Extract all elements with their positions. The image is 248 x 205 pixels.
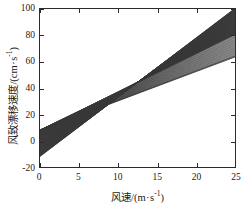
y-tick-label: 100 bbox=[1, 3, 35, 13]
x-tick-mark bbox=[40, 9, 41, 13]
x-tick-label: 10 bbox=[113, 172, 123, 182]
y-tick-mark bbox=[231, 89, 235, 90]
x-tick-mark bbox=[197, 9, 198, 13]
x-tick-mark bbox=[40, 163, 41, 167]
x-tick-label: 25 bbox=[231, 172, 241, 182]
y-tick-mark bbox=[40, 89, 44, 90]
y-tick-mark bbox=[40, 35, 44, 36]
x-axis-label-prefix: 风速/(m bbox=[111, 192, 146, 203]
y-tick-mark bbox=[231, 35, 235, 36]
y-tick-mark bbox=[40, 62, 44, 63]
x-tick-mark bbox=[158, 163, 159, 167]
y-tick-mark bbox=[231, 9, 235, 10]
y-tick-mark bbox=[231, 115, 235, 116]
y-tick-mark bbox=[40, 9, 44, 10]
x-tick-mark bbox=[118, 163, 119, 167]
y-axis-label-suffix: ) bbox=[8, 47, 19, 51]
x-tick-label: 20 bbox=[192, 172, 202, 182]
x-tick-mark bbox=[79, 163, 80, 167]
x-axis-label: 风速/(m·s-1) bbox=[39, 188, 236, 204]
y-axis-label: 风致漂移速度/(cm·s-1) bbox=[4, 16, 20, 176]
x-tick-mark bbox=[197, 163, 198, 167]
y-axis-label-prefix: 风致漂移速度/(cm bbox=[8, 65, 19, 144]
y-tick-mark bbox=[40, 115, 44, 116]
y-tick-mark bbox=[231, 62, 235, 63]
x-tick-mark bbox=[79, 9, 80, 13]
x-tick-label: 5 bbox=[76, 172, 81, 182]
x-tick-label: 0 bbox=[37, 172, 42, 182]
x-tick-mark bbox=[158, 9, 159, 13]
plot-area bbox=[39, 8, 236, 168]
data-line bbox=[40, 57, 235, 130]
chart-figure: 0510152025 -20020406080100 风速/(m·s-1) 风致… bbox=[0, 0, 248, 205]
data-lines-group bbox=[40, 9, 235, 167]
y-axis-label-exponent: -1 bbox=[5, 50, 14, 56]
x-tick-mark bbox=[118, 9, 119, 13]
y-axis-label-unit: s bbox=[8, 57, 19, 61]
x-axis-label-suffix: ) bbox=[160, 192, 164, 203]
y-tick-mark bbox=[231, 142, 235, 143]
y-axis-label-dot: · bbox=[8, 61, 19, 66]
y-tick-mark bbox=[40, 142, 44, 143]
x-tick-label: 15 bbox=[152, 172, 162, 182]
